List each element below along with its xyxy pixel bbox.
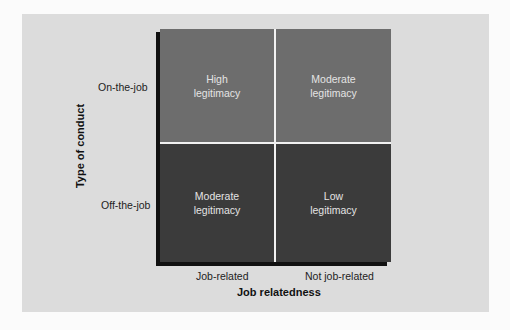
legitimacy-matrix: Highlegitimacy Moderatelegitimacy Modera… (160, 29, 391, 262)
cell-onjob-notjobrelated: Moderatelegitimacy (276, 29, 391, 144)
row-label-on-the-job: On-the-job (98, 81, 148, 93)
cell-text: Low (324, 190, 343, 202)
cell-offjob-jobrelated: Moderatelegitimacy (160, 144, 276, 262)
cell-text: High (206, 73, 228, 85)
cell-text: legitimacy (194, 87, 241, 99)
cell-text: legitimacy (310, 87, 357, 99)
column-label-job-related: Job-related (196, 270, 249, 282)
y-axis-title: Type of conduct (74, 104, 86, 188)
cell-onjob-jobrelated: Highlegitimacy (160, 29, 276, 144)
cell-text: legitimacy (310, 204, 357, 216)
column-label-not-job-related: Not job-related (305, 270, 374, 282)
cell-text: Moderate (311, 73, 355, 85)
cell-text: Moderate (195, 190, 239, 202)
cell-text: legitimacy (194, 204, 241, 216)
cell-offjob-notjobrelated: Lowlegitimacy (276, 144, 391, 262)
x-axis-title: Job relatedness (237, 286, 321, 298)
row-label-off-the-job: Off-the-job (101, 199, 150, 211)
